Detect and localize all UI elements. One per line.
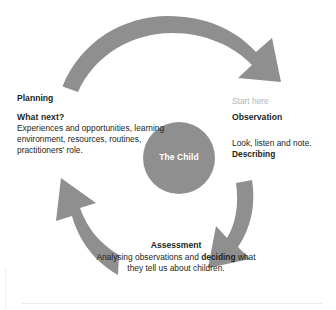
planning-heading: Planning [17,93,167,105]
observation-body: Look, listen and note. [232,138,332,149]
assessment-body: Analysing observations and deciding what… [96,252,256,274]
page-divider [22,303,322,304]
stage-planning: Planning What next? Experiences and oppo… [17,93,167,156]
planning-subheading: What next? [17,112,167,124]
spacer [232,124,332,138]
diagram-canvas: The Child Planning What next? Experience… [0,0,336,310]
page-edge-line [5,268,6,310]
arrow-planning-to-observation-icon [63,16,282,92]
stage-observation: Start here Observation Look, listen and … [232,96,332,160]
stage-assessment: Assessment Analysing observations and de… [96,240,256,273]
start-here-label: Start here [232,96,332,107]
planning-body: Experiences and opportunities, learning … [17,123,167,156]
assessment-heading: Assessment [96,240,256,252]
observation-emphasis: Describing [232,149,332,160]
spacer [17,105,167,112]
assessment-body-before: Analysing observations and [96,252,201,262]
observation-heading: Observation [232,112,332,124]
assessment-emphasis: deciding [201,252,235,262]
